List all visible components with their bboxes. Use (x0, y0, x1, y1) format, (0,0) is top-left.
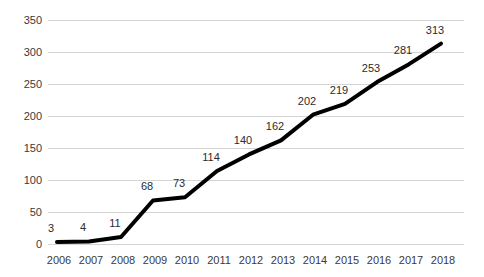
data-point-label: 281 (394, 44, 412, 56)
x-axis-tick-label: 2015 (335, 254, 359, 266)
y-axis-tick-label: 350 (0, 14, 42, 26)
y-axis-tick-label: 100 (0, 174, 42, 186)
data-point-label: 73 (173, 177, 185, 189)
x-axis-tick-label: 2014 (303, 254, 327, 266)
data-point-label: 253 (362, 62, 380, 74)
x-axis-tick-label: 2010 (175, 254, 199, 266)
data-point-label: 4 (80, 221, 86, 233)
data-point-label: 114 (202, 151, 220, 163)
data-point-label: 68 (141, 180, 153, 192)
x-axis-tick-label: 2018 (431, 254, 455, 266)
y-axis-tick-label: 300 (0, 46, 42, 58)
y-axis-tick-label: 0 (0, 238, 42, 250)
x-axis-tick-label: 2006 (47, 254, 71, 266)
line-chart: 050100150200250300350 200620072008200920… (0, 0, 484, 277)
y-axis-tick-label: 50 (0, 206, 42, 218)
x-axis-tick-label: 2013 (271, 254, 295, 266)
x-axis-tick-label: 2012 (239, 254, 263, 266)
y-axis-tick-label: 250 (0, 78, 42, 90)
data-point-label: 202 (298, 95, 316, 107)
y-axis-tick-label: 200 (0, 110, 42, 122)
data-point-label: 3 (48, 222, 54, 234)
x-axis-tick-label: 2016 (367, 254, 391, 266)
data-point-label: 313 (426, 24, 444, 36)
x-axis-tick-label: 2007 (79, 254, 103, 266)
x-axis-tick-label: 2008 (111, 254, 135, 266)
data-point-label: 162 (266, 120, 284, 132)
y-axis-tick-label: 150 (0, 142, 42, 154)
x-axis-tick-label: 2017 (399, 254, 423, 266)
data-point-label: 140 (234, 134, 252, 146)
data-point-label: 219 (330, 84, 348, 96)
x-axis-tick-label: 2011 (207, 254, 231, 266)
x-axis-tick-label: 2009 (143, 254, 167, 266)
data-point-label: 11 (109, 217, 120, 229)
